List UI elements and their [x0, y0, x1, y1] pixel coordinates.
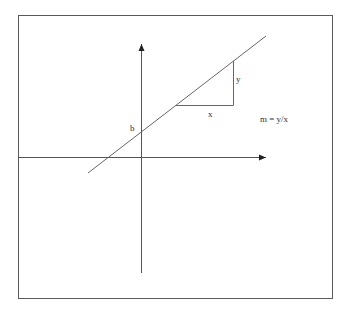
slope-formula-label: m = y/x — [260, 114, 289, 124]
slope-diagram: b y x m = y/x — [0, 0, 348, 310]
intercept-label: b — [130, 123, 135, 133]
diagram-canvas: b y x m = y/x — [0, 0, 348, 310]
rise-label: y — [236, 74, 241, 84]
run-label: x — [208, 109, 213, 119]
